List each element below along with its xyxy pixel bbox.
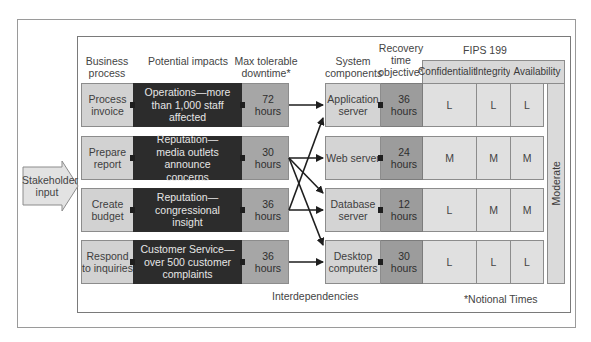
footnote-notional-times: *Notional Times (464, 293, 538, 305)
interdependencies-label: Interdependencies (272, 290, 358, 302)
